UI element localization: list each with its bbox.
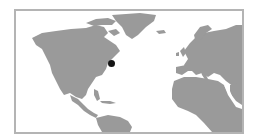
world-map bbox=[16, 11, 242, 132]
landmasses bbox=[32, 13, 242, 132]
location-marker[interactable] bbox=[108, 60, 115, 67]
map-frame[interactable] bbox=[14, 9, 244, 134]
north-america bbox=[32, 25, 120, 99]
